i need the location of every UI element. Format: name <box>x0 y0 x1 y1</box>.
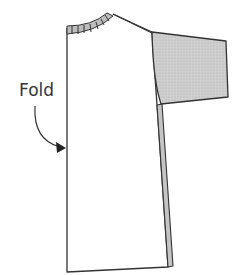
fold-arrow-icon <box>35 106 66 153</box>
garment-diagram <box>0 0 245 275</box>
fold-label: Fold <box>19 80 54 100</box>
sleeve <box>152 32 228 104</box>
